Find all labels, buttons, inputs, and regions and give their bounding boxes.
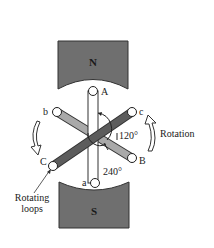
- north-label: N: [89, 56, 97, 68]
- label-c: c: [139, 106, 144, 117]
- coil-end-b: [53, 108, 62, 117]
- generator-diagram: N S A a b c C B 120° 240° Rotation Rotat…: [0, 0, 214, 248]
- label-a: a: [82, 177, 87, 188]
- coil-end-c: [128, 108, 137, 117]
- coil-end-B: [128, 154, 137, 163]
- coil-end-a: [91, 179, 100, 188]
- rotation-arrow-left-icon: [31, 121, 41, 155]
- angle-label-120: 120°: [119, 130, 138, 141]
- coil-end-A: [89, 87, 98, 96]
- label-b: b: [43, 106, 48, 117]
- rotating-loops-pointer: [34, 170, 50, 193]
- rotation-label: Rotation: [160, 128, 194, 139]
- south-label: S: [91, 205, 97, 217]
- rotating-loops-label-line2: loops: [21, 203, 43, 214]
- label-C: C: [40, 156, 47, 167]
- rotation-arrow-right-icon: [145, 115, 156, 151]
- angle-label-240: 240°: [103, 166, 122, 177]
- label-A: A: [101, 86, 109, 97]
- coil-end-C: [49, 162, 58, 171]
- label-B: B: [139, 155, 146, 166]
- rotating-loops-label-line1: Rotating: [15, 192, 49, 203]
